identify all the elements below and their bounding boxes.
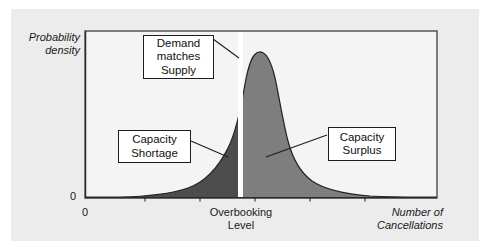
callout-demand-line1: Demand: [157, 37, 200, 51]
callout-demand-matches-supply: Demand matches Supply: [143, 35, 214, 79]
callout-capacity-surplus: Capacity Surplus: [328, 127, 396, 161]
y-axis-origin-label: 0: [70, 190, 76, 202]
callout-demand-line3: Supply: [161, 64, 196, 78]
x-axis-title-line2: Cancellations: [333, 219, 443, 232]
callout-demand-line2: matches: [157, 50, 200, 64]
y-axis-title: Probability density: [20, 31, 80, 56]
x-axis-origin-label: 0: [82, 206, 88, 218]
x-axis-overbooking-line1: Overbooking: [185, 206, 297, 219]
y-axis-title-line1: Probability: [20, 31, 80, 44]
x-axis-overbooking-line2: Level: [185, 219, 297, 232]
callout-surplus-line2: Surplus: [343, 144, 382, 158]
overbooking-level-divider: [238, 31, 243, 198]
x-axis-overbooking-label: Overbooking Level: [185, 206, 297, 231]
x-axis-title: Number of Cancellations: [333, 206, 443, 231]
x-axis-title-line1: Number of: [333, 206, 443, 219]
figure-root: Probability density 0 0 Overbooking Leve…: [0, 0, 493, 250]
callout-shortage-line2: Shortage: [131, 147, 178, 161]
callout-shortage-line1: Capacity: [132, 133, 177, 147]
callout-surplus-line1: Capacity: [340, 131, 385, 145]
callout-capacity-shortage: Capacity Shortage: [118, 130, 191, 163]
y-axis-title-line2: density: [20, 44, 80, 57]
